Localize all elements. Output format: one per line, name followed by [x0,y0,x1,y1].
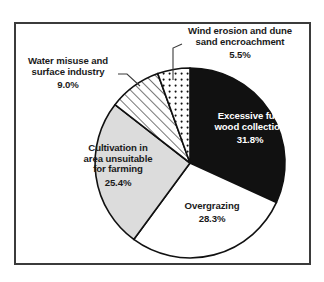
slice-value-wind-erosion: 5.5% [160,50,320,61]
slice-label-excessive-fuel-wood: Excessive fuel wood collection 31.8% [198,111,302,146]
slice-value-cultivation: 25.4% [66,178,170,189]
slice-label-excessive-fuel-wood-line2: wood collection [198,122,302,133]
slice-label-overgrazing: Overgrazing 28.3% [162,201,262,225]
slice-label-water-misuse-line2: surface industry [6,67,130,78]
slice-value-excessive-fuel-wood: 31.8% [198,135,302,146]
slice-label-wind-erosion: Wind erosion and dune sand encroachment … [160,26,320,61]
slice-value-overgrazing: 28.3% [162,214,262,225]
slice-label-cultivation: Cultivation in area unsuitable for farmi… [66,143,170,188]
slice-label-water-misuse: Water misuse and surface industry 9.0% [6,56,130,91]
slice-label-overgrazing-line1: Overgrazing [162,201,262,212]
slice-value-water-misuse: 9.0% [6,80,130,91]
pie-chart-figure: Wind erosion and dune sand encroachment … [0,0,324,282]
slice-label-cultivation-line3: for farming [66,164,170,175]
slice-label-wind-erosion-line2: sand encroachment [160,37,320,48]
